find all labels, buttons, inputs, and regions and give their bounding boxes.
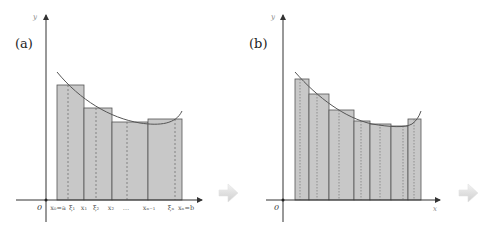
bar <box>408 119 421 200</box>
bar <box>370 124 391 200</box>
bar <box>112 122 148 200</box>
tick-label: ξ₂ <box>93 204 99 212</box>
panel-b-label: (b) <box>249 36 267 51</box>
tick-label: … <box>123 204 130 212</box>
panel-a-origin-label: 0 <box>37 203 42 212</box>
panel-a-bars <box>57 85 182 200</box>
bar <box>295 79 309 200</box>
tick-label: x₂ <box>108 204 114 212</box>
tick-label: x₀=a <box>50 204 66 212</box>
bar <box>329 110 354 200</box>
right-arrow-icon <box>459 184 478 202</box>
bar <box>84 108 112 200</box>
tick-label: ξ₁ <box>69 204 75 212</box>
tick-label: x₁ <box>81 204 87 212</box>
tick-label: ξₙ <box>168 204 174 212</box>
panel-a-y-axis-label: y <box>33 13 37 21</box>
panel-a-label: (a) <box>15 36 33 51</box>
bar <box>57 85 84 200</box>
panel-a-origin-dot <box>45 199 48 202</box>
tick-label: xₙ₋₁ <box>143 204 156 212</box>
panel-b-origin-label: 0 <box>274 203 279 212</box>
panel-b-bars <box>295 79 421 200</box>
bar <box>391 126 408 200</box>
panel-b-x-axis-label: x <box>433 205 437 213</box>
bar <box>354 121 370 200</box>
right-arrow-icon <box>219 184 238 202</box>
panel-b-y-axis-label: y <box>271 13 275 21</box>
panel-b-origin-dot <box>282 199 285 202</box>
riemann-sum-diagram <box>0 0 503 233</box>
tick-label: xₙ=b <box>178 204 194 212</box>
bar <box>309 94 329 200</box>
bar <box>148 119 182 200</box>
panel-b <box>266 15 440 222</box>
panel-a <box>16 15 202 222</box>
